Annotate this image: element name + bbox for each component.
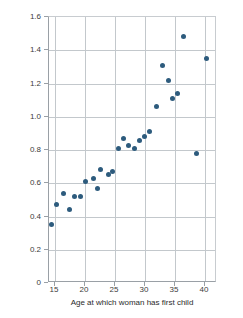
x-axis-tick-label: 25: [110, 285, 119, 294]
data-point: [61, 191, 66, 196]
data-point: [49, 222, 54, 227]
data-point: [110, 169, 115, 174]
data-point: [181, 34, 186, 39]
y-axis-tick: [44, 16, 48, 17]
data-point: [160, 63, 165, 68]
x-axis-title: Age at which woman has first child: [48, 298, 216, 307]
data-point: [78, 194, 83, 199]
data-point: [83, 179, 88, 184]
data-point: [116, 146, 121, 151]
y-axis-tick: [44, 49, 48, 50]
y-axis-tick: [44, 116, 48, 117]
x-axis-tick-label: 15: [50, 285, 59, 294]
x-axis-tick-label: 35: [170, 285, 179, 294]
y-axis-tick-label: 0.6: [8, 178, 41, 187]
data-point: [142, 134, 147, 139]
y-axis-tick-label: 1.2: [8, 78, 41, 87]
y-axis-tick-label: 1.0: [8, 111, 41, 120]
data-point: [166, 78, 171, 83]
data-point: [154, 104, 159, 109]
y-axis-tick: [44, 149, 48, 150]
data-point: [204, 56, 209, 61]
y-axis-tick-label: 0.2: [8, 244, 41, 253]
data-point: [170, 96, 175, 101]
data-point: [137, 138, 142, 143]
data-point: [126, 143, 131, 148]
y-axis-tick: [44, 83, 48, 84]
y-axis-tick-label: 1.4: [8, 45, 41, 54]
scatter-chart-figure: 15202530354000.20.40.60.81.01.21.41.6 Ag…: [0, 0, 243, 318]
y-axis-tick-label: 1.6: [8, 12, 41, 21]
y-axis-tick: [44, 282, 48, 283]
y-axis-tick-label: 0.8: [8, 145, 41, 154]
plot-area: [48, 16, 216, 282]
data-point: [194, 151, 199, 156]
y-axis-tick: [44, 216, 48, 217]
data-points-layer: [49, 17, 215, 281]
data-point: [132, 146, 137, 151]
x-axis-tick-label: 20: [80, 285, 89, 294]
y-axis-tick-label: 0: [8, 278, 41, 287]
y-axis-tick-label: 0.4: [8, 211, 41, 220]
y-axis-tick: [44, 249, 48, 250]
data-point: [72, 194, 77, 199]
data-point: [147, 129, 152, 134]
x-axis-tick-label: 40: [200, 285, 209, 294]
x-axis-tick-label: 30: [140, 285, 149, 294]
y-axis-tick: [44, 182, 48, 183]
data-point: [95, 186, 100, 191]
data-point: [98, 167, 103, 172]
data-point: [91, 176, 96, 181]
data-point: [67, 207, 72, 212]
data-point: [175, 91, 180, 96]
data-point: [121, 136, 126, 141]
data-point: [54, 202, 59, 207]
